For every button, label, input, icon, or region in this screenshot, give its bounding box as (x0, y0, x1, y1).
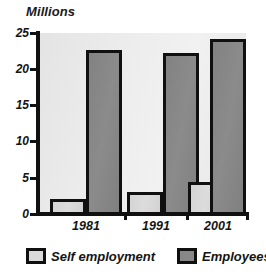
x-tick-label-2001: 2001 (204, 219, 232, 233)
legend-swatch-icon (177, 248, 197, 264)
x-tick-mark-2 (186, 212, 189, 220)
x-tick-mark-3 (246, 212, 249, 220)
y-tick-mark-0 (30, 213, 37, 216)
y-tick-label: 20 (3, 62, 29, 76)
y-tick-label: 5 (3, 171, 29, 185)
chart-legend: Self employment Employees (26, 244, 258, 268)
legend-entry-self-employment: Self employment (26, 248, 155, 264)
bar-chart-figure: Millions 25 20 15 10 5 0 1981 1991 2001 (0, 0, 266, 280)
y-tick-label: 15 (3, 98, 29, 112)
y-tick-mark-5 (30, 177, 37, 180)
y-tick-mark-20 (30, 68, 37, 71)
bar-employees-2001 (210, 39, 246, 215)
y-tick-label: 25 (3, 26, 29, 40)
bar-self-employment-1991 (127, 192, 163, 215)
bar-self-employment-1981 (50, 199, 86, 215)
x-tick-label-1981: 1981 (72, 219, 100, 233)
y-tick-mark-10 (30, 140, 37, 143)
x-tick-mark-1 (124, 212, 127, 220)
y-tick-mark-25 (30, 32, 37, 35)
x-tick-label-1991: 1991 (142, 219, 170, 233)
legend-swatch-icon (26, 248, 46, 264)
y-tick-label: 10 (3, 134, 29, 148)
y-tick-label: 0 (3, 207, 29, 221)
y-axis-line (36, 31, 40, 216)
bar-employees-1981 (86, 50, 122, 215)
y-tick-mark-15 (30, 104, 37, 107)
legend-label: Self employment (51, 249, 155, 264)
y-axis-title: Millions (26, 4, 75, 19)
legend-entry-employees: Employees (177, 248, 266, 264)
legend-label: Employees (202, 249, 266, 264)
